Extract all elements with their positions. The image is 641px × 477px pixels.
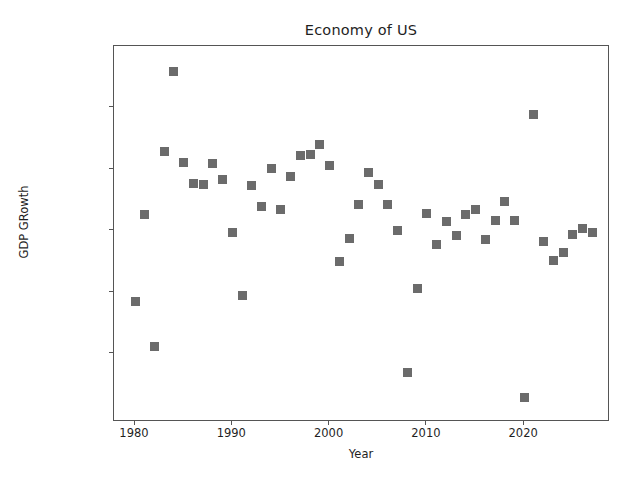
x-tick-label: 1990 [201,426,261,440]
x-tick-label: 2000 [299,426,359,440]
x-tick-mark [231,421,232,425]
x-tick-mark [134,421,135,425]
x-axis-ticks: 19801990200020102020 [0,0,641,477]
x-tick-mark [523,421,524,425]
x-axis-label: Year [113,447,609,461]
x-tick-label: 1980 [104,426,164,440]
x-tick-label: 2020 [493,426,553,440]
x-tick-mark [328,421,329,425]
x-tick-label: 2010 [396,426,456,440]
figure-canvas: Economy of US GDP GRowth 0.060.040.020.0… [0,0,641,477]
x-tick-mark [425,421,426,425]
